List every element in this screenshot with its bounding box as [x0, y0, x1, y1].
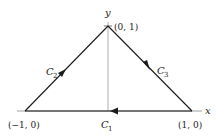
curve-label-c2: C 2	[46, 66, 57, 80]
svg-text:3: 3	[164, 71, 168, 79]
svg-text:2: 2	[53, 72, 57, 80]
triangle-contour-diagram: y x (0, 1) (−1, 0) (1, 0) C 2 C 3 C 1	[0, 0, 216, 140]
curve-label-c1: C 1	[101, 119, 112, 133]
point-left-label: (−1, 0)	[8, 120, 40, 130]
y-axis-label: y	[104, 7, 111, 18]
svg-text:1: 1	[108, 125, 112, 133]
arrow-c1-icon	[110, 108, 118, 115]
curve-c2	[25, 26, 108, 111]
point-apex-label: (0, 1)	[114, 22, 138, 32]
x-axis-label: x	[205, 105, 211, 116]
point-right-label: (1, 0)	[178, 120, 202, 130]
curve-c3	[108, 26, 192, 111]
arrow-c3-icon	[143, 60, 150, 70]
